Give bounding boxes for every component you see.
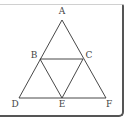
- triangle-diagram: A B C D E F: [0, 0, 129, 124]
- label-E: E: [59, 99, 66, 109]
- label-F: F: [106, 99, 112, 109]
- segment-BE: [40, 59, 62, 98]
- label-C: C: [86, 50, 93, 60]
- label-B: B: [31, 50, 38, 60]
- label-A: A: [58, 6, 66, 16]
- label-D: D: [11, 99, 18, 109]
- segment-CE: [62, 59, 83, 98]
